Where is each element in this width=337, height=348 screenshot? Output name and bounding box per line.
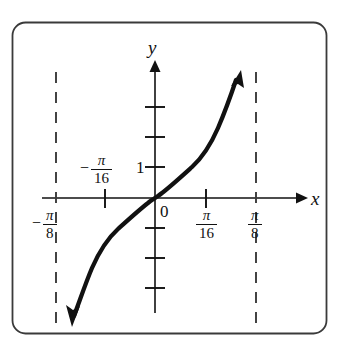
numerator: π [43, 207, 57, 225]
numerator: π [248, 207, 262, 225]
x-tick-label-pi-over-16: π 16 [196, 207, 217, 242]
y-tick-label-1: 1 [136, 159, 145, 176]
denominator: 8 [248, 225, 262, 242]
minus-sign: − [80, 160, 89, 176]
x-axis-label: x [311, 189, 319, 208]
x-tick-label-neg-pi-over-8: − π 8 [32, 207, 57, 242]
minus-sign: − [32, 215, 41, 231]
origin-label: 0 [160, 203, 169, 220]
denominator: 8 [43, 225, 57, 242]
denominator: 16 [196, 225, 217, 242]
figure-panel: y x 0 1 − π 8 − π 16 π 16 [0, 0, 337, 348]
figure-frame [13, 23, 327, 334]
y-axis-label: y [148, 38, 156, 57]
x-tick-label-neg-pi-over-16: − π 16 [80, 152, 112, 187]
curve-arrow-up [231, 70, 244, 88]
x-axis [42, 193, 308, 204]
graph-canvas [0, 0, 337, 348]
numerator: π [91, 152, 112, 170]
numerator: π [196, 207, 217, 225]
y-axis [150, 60, 161, 313]
curve-arrow-down [66, 305, 80, 327]
denominator: 16 [91, 170, 112, 187]
x-tick-label-pi-over-8: π 8 [248, 207, 262, 242]
